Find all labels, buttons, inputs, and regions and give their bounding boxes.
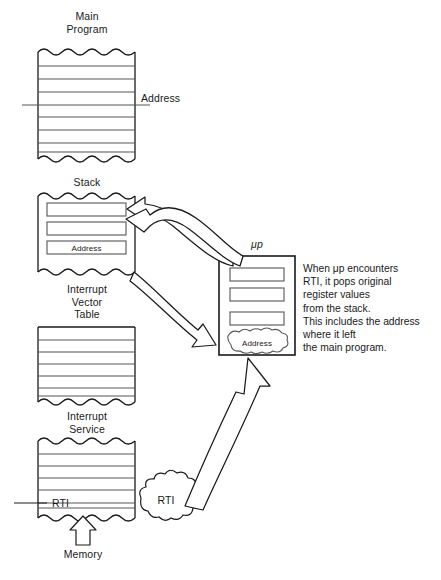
up-address-register-label: Address	[230, 339, 284, 348]
microprocessor-title: μp	[227, 238, 287, 251]
arrow-up-to-stack-lower	[126, 208, 243, 266]
main-program-address-label: Address	[141, 92, 221, 105]
stack-address-cell-label: Address	[47, 244, 126, 253]
interrupt-service-title: Interrupt Service	[47, 410, 127, 435]
main-program-title: Main Program	[47, 10, 127, 35]
description-text: When μp encounters RTI, it pops original…	[303, 262, 441, 354]
stack-block	[38, 193, 135, 275]
arrow-rti-to-up	[185, 358, 270, 510]
stack-title: Stack	[47, 176, 127, 189]
memory-arrow	[70, 516, 96, 545]
memory-label: Memory	[43, 548, 123, 561]
memory-interrupt-rti-diagram: Main Program Address Stack Address Inter…	[0, 0, 441, 580]
rti-cloud-label: RTI	[143, 494, 189, 507]
rti-instruction-label: RTI	[52, 497, 92, 510]
interrupt-vector-table-block	[38, 327, 135, 405]
interrupt-vector-table-title: Interrupt Vector Table	[47, 283, 127, 321]
arrow-stack-to-up-address	[130, 272, 216, 347]
main-program-block	[22, 49, 150, 162]
